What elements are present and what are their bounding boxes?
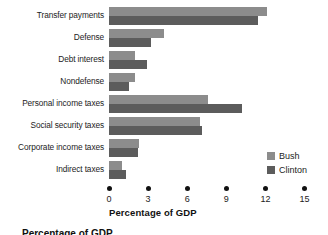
category-label: Defense: [0, 33, 104, 42]
x-tick-dot: [146, 186, 151, 191]
bar-bush: [109, 139, 139, 148]
bar-bush: [109, 7, 267, 16]
bar-clinton: [109, 82, 129, 91]
x-tick-dot: [224, 186, 229, 191]
bar-bush: [109, 95, 208, 104]
bar-bush: [109, 29, 164, 38]
bar-bush: [109, 117, 200, 126]
x-tick-dot: [302, 186, 307, 191]
bar-clinton: [109, 104, 242, 113]
category-label: Debt interest: [0, 55, 104, 64]
category-label: Social security taxes: [0, 121, 104, 130]
category-label: Nondefense: [0, 77, 104, 86]
x-tick-label: 0: [94, 194, 124, 205]
x-tick-dot: [185, 186, 190, 191]
legend: Bush Clinton: [267, 150, 325, 178]
legend-entry-bush: Bush: [267, 150, 325, 162]
bar-clinton: [109, 16, 258, 25]
legend-swatch-clinton-icon: [267, 166, 275, 174]
x-tick-label: 15: [290, 194, 320, 205]
bar-chart-figure: Transfer payments Defense Debt interest …: [0, 0, 328, 235]
bar-clinton: [109, 38, 151, 47]
bar-bush: [109, 161, 122, 170]
x-tick-dot: [263, 186, 268, 191]
legend-label-bush: Bush: [279, 150, 300, 162]
category-label: Corporate income taxes: [0, 143, 104, 152]
bar-bush: [109, 51, 135, 60]
x-axis-title: Percentage of GDP: [109, 207, 197, 218]
bar-clinton: [109, 170, 126, 179]
x-tick-label: 9: [211, 194, 241, 205]
legend-entry-clinton: Clinton: [267, 164, 325, 176]
category-label: Transfer payments: [0, 11, 104, 20]
x-tick-label: 12: [250, 194, 280, 205]
legend-label-clinton: Clinton: [279, 164, 307, 176]
caption-sliver: Percentage of GDP: [22, 228, 312, 235]
bar-clinton: [109, 60, 147, 69]
bar-bush: [109, 73, 135, 82]
category-axis-labels: Transfer payments Defense Debt interest …: [0, 7, 104, 185]
x-tick-dot: [107, 186, 112, 191]
bar-clinton: [109, 126, 202, 135]
x-tick-label: 3: [133, 194, 163, 205]
category-label: Indirect taxes: [0, 165, 104, 174]
bar-clinton: [109, 148, 138, 157]
x-tick-label: 6: [172, 194, 202, 205]
legend-swatch-bush-icon: [267, 152, 275, 160]
category-label: Personal income taxes: [0, 99, 104, 108]
